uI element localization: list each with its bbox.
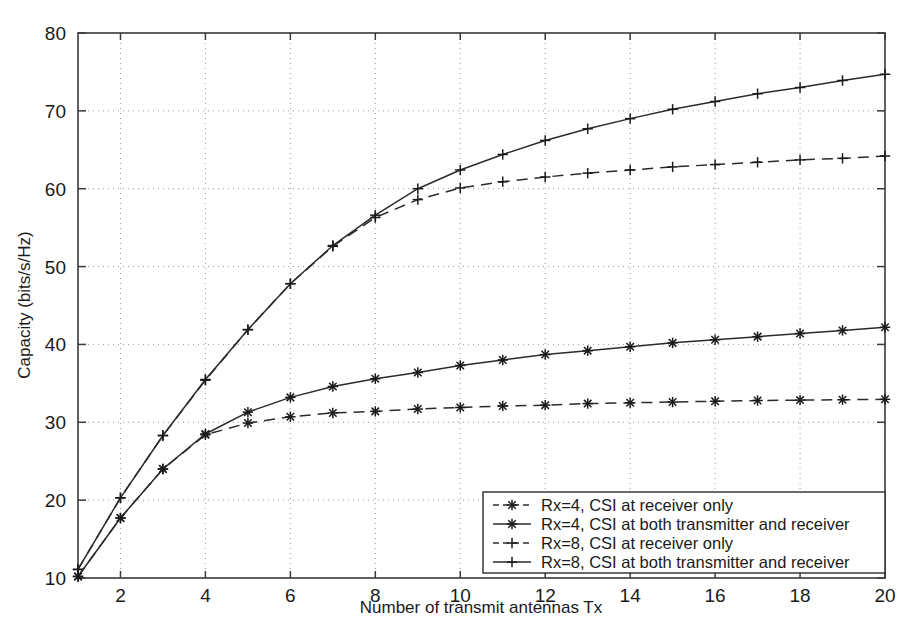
data-point-marker bbox=[413, 194, 423, 204]
data-point-marker bbox=[837, 153, 847, 163]
data-point-marker bbox=[667, 397, 677, 407]
data-point-marker bbox=[582, 345, 592, 355]
y-tick-labels: 1020304050607080 bbox=[45, 23, 66, 589]
y-tick-label: 30 bbox=[45, 412, 66, 433]
data-point-marker bbox=[243, 407, 253, 417]
data-point-marker bbox=[413, 404, 423, 414]
data-point-marker bbox=[370, 406, 380, 416]
data-point-marker bbox=[837, 325, 847, 335]
x-tick-label: 20 bbox=[874, 585, 895, 606]
data-point-marker bbox=[667, 162, 677, 172]
x-tick-label: 14 bbox=[620, 585, 642, 606]
data-point-marker bbox=[667, 104, 677, 114]
data-point-marker bbox=[200, 429, 210, 439]
data-point-marker bbox=[710, 159, 720, 169]
x-tick-label: 4 bbox=[200, 585, 211, 606]
data-point-marker bbox=[625, 342, 635, 352]
data-point-marker bbox=[880, 151, 890, 161]
data-point-marker bbox=[285, 392, 295, 402]
capacity-vs-antennas-figure: 2468101214161820 1020304050607080 Rx=4, … bbox=[0, 0, 919, 635]
y-tick-label: 10 bbox=[45, 568, 66, 589]
data-point-marker bbox=[413, 184, 423, 194]
data-point-marker bbox=[455, 165, 465, 175]
data-point-marker bbox=[625, 165, 635, 175]
data-point-marker bbox=[880, 394, 890, 404]
data-point-marker bbox=[455, 183, 465, 193]
legend-item: Rx=4, CSI at both transmitter and receiv… bbox=[493, 515, 850, 533]
data-point-marker bbox=[540, 349, 550, 359]
data-point-marker bbox=[625, 398, 635, 408]
data-point-marker bbox=[540, 400, 550, 410]
data-point-marker bbox=[795, 82, 805, 92]
legend-item: Rx=8, CSI at both transmitter and receiv… bbox=[493, 553, 850, 571]
data-point-marker bbox=[582, 124, 592, 134]
data-point-marker bbox=[158, 464, 168, 474]
x-tick-label: 2 bbox=[115, 585, 126, 606]
data-point-marker bbox=[115, 493, 125, 503]
data-point-marker bbox=[498, 177, 508, 187]
data-point-marker bbox=[752, 395, 762, 405]
x-tick-label: 18 bbox=[789, 585, 810, 606]
legend-label: Rx=4, CSI at both transmitter and receiv… bbox=[541, 515, 850, 533]
data-point-marker bbox=[752, 157, 762, 167]
data-point-marker bbox=[710, 96, 720, 106]
data-point-marker bbox=[540, 172, 550, 182]
data-point-marker bbox=[540, 135, 550, 145]
chart-canvas: 2468101214161820 1020304050607080 Rx=4, … bbox=[0, 0, 919, 635]
data-point-marker bbox=[507, 519, 517, 529]
data-point-marker bbox=[370, 210, 380, 220]
x-axis-title: Number of transmit antennas Tx bbox=[360, 598, 603, 617]
y-tick-label: 60 bbox=[45, 179, 66, 200]
data-point-marker bbox=[752, 331, 762, 341]
data-point-marker bbox=[582, 168, 592, 178]
data-point-marker bbox=[752, 89, 762, 99]
data-point-marker bbox=[115, 513, 125, 523]
data-point-marker bbox=[667, 338, 677, 348]
legend-label: Rx=4, CSI at receiver only bbox=[541, 496, 734, 514]
data-point-marker bbox=[455, 402, 465, 412]
y-tick-label: 70 bbox=[45, 101, 66, 122]
data-point-marker bbox=[710, 335, 720, 345]
data-point-marker bbox=[795, 155, 805, 165]
data-point-marker bbox=[498, 149, 508, 159]
data-point-marker bbox=[328, 408, 338, 418]
data-point-marker bbox=[243, 418, 253, 428]
y-tick-label: 50 bbox=[45, 257, 66, 278]
data-point-marker bbox=[328, 381, 338, 391]
x-tick-label: 6 bbox=[285, 585, 296, 606]
data-point-marker bbox=[837, 395, 847, 405]
data-point-marker bbox=[795, 395, 805, 405]
data-point-marker bbox=[837, 75, 847, 85]
data-point-marker bbox=[498, 401, 508, 411]
data-point-marker bbox=[413, 367, 423, 377]
data-point-marker bbox=[880, 322, 890, 332]
y-tick-label: 80 bbox=[45, 23, 66, 44]
data-point-marker bbox=[455, 360, 465, 370]
data-point-marker bbox=[582, 398, 592, 408]
chart-legend: Rx=4, CSI at receiver onlyRx=4, CSI at b… bbox=[483, 492, 885, 573]
y-axis-title: Capacity (bits/s/Hz) bbox=[15, 231, 34, 378]
data-point-marker bbox=[795, 328, 805, 338]
legend-label: Rx=8, CSI at both transmitter and receiv… bbox=[541, 553, 850, 571]
data-point-marker bbox=[285, 412, 295, 422]
y-tick-label: 20 bbox=[45, 490, 66, 511]
data-point-marker bbox=[710, 396, 720, 406]
data-point-marker bbox=[498, 355, 508, 365]
data-point-marker bbox=[625, 113, 635, 123]
x-tick-label: 16 bbox=[705, 585, 726, 606]
data-point-marker bbox=[370, 373, 380, 383]
legend-label: Rx=8, CSI at receiver only bbox=[541, 534, 734, 552]
data-point-marker bbox=[880, 69, 890, 79]
y-tick-label: 40 bbox=[45, 334, 66, 355]
data-point-marker bbox=[507, 500, 517, 510]
